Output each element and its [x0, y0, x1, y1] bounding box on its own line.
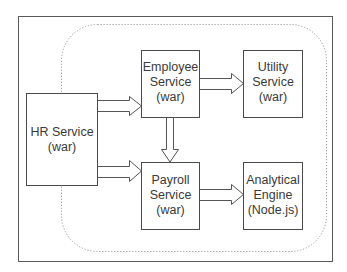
node-analytical-engine: Analytical Engine (Node.js) [244, 163, 303, 230]
node-employee-line-1: Employee [143, 60, 199, 74]
node-payroll-service: Payroll Service (war) [142, 163, 200, 230]
node-payroll-line-1: Payroll [151, 173, 189, 187]
node-utility-line-3: (war) [259, 90, 287, 104]
architecture-diagram: HR Service (war) Employee Service (war) … [0, 0, 347, 272]
node-analytical-line-1: Analytical [246, 173, 300, 187]
node-utility-line-2: Service [252, 75, 294, 89]
node-hr-service: HR Service (war) [27, 94, 98, 186]
node-analytical-line-2: Engine [254, 188, 293, 202]
node-utility-service: Utility Service (war) [244, 51, 303, 118]
node-employee-line-2: Service [150, 75, 192, 89]
node-hr-line-2: (war) [48, 140, 76, 154]
node-payroll-line-3: (war) [156, 203, 184, 217]
node-employee-line-3: (war) [156, 90, 184, 104]
node-analytical-line-3: (Node.js) [248, 203, 299, 217]
node-employee-service: Employee Service (war) [142, 51, 200, 118]
node-utility-line-1: Utility [258, 60, 289, 74]
node-payroll-line-2: Service [150, 188, 192, 202]
node-hr-line-1: HR Service [30, 125, 93, 139]
